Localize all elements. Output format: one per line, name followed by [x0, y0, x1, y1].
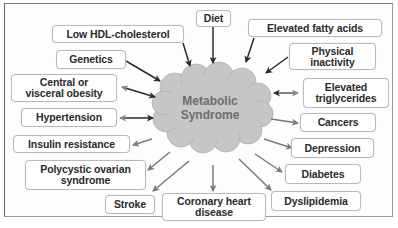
node-genetics: Genetics: [56, 50, 126, 69]
node-cancers: Cancers: [300, 113, 376, 132]
node-polycystic-ovarian-syndrome: Polycystic ovarian syndrome: [25, 160, 146, 190]
node-diet: Diet: [196, 10, 231, 27]
node-stroke: Stroke: [105, 195, 155, 214]
node-coronary-heart-disease: Coronary heart disease: [162, 193, 266, 221]
node-physical-inactivity: Physical inactivity: [289, 43, 376, 70]
node-depression: Depression: [291, 138, 374, 158]
node-low-hdl-cholesterol: Low HDL-cholesterol: [52, 25, 184, 43]
node-elevated-triglycerides: Elevated triglycerides: [303, 78, 389, 108]
center-label-metabolic-syndrome: Metabolic Syndrome: [172, 94, 248, 122]
node-dyslipidemia: Dyslipidemia: [271, 191, 361, 211]
node-elevated-fatty-acids: Elevated fatty acids: [248, 19, 382, 37]
node-central-visceral-obesity: Central or visceral obesity: [11, 74, 117, 102]
node-insulin-resistance: Insulin resistance: [13, 135, 130, 153]
node-diabetes: Diabetes: [285, 164, 361, 184]
node-hypertension: Hypertension: [21, 108, 117, 127]
